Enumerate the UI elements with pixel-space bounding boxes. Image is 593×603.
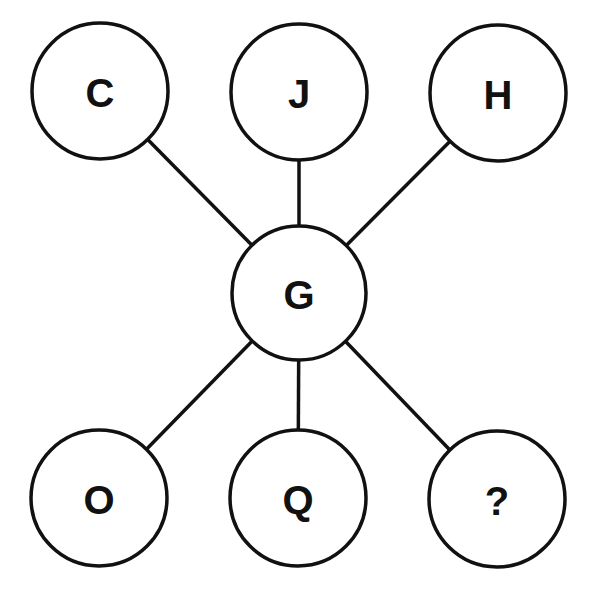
node-top-middle: J [231,24,367,160]
question-mark-label: ? [485,479,509,523]
node-bottom-right-unknown: ? [429,431,565,567]
bottom-middle-label: Q [282,478,313,522]
letter-puzzle-diagram: G C J H O Q ? [0,0,593,603]
bottom-left-label: O [83,478,114,522]
node-center: G [232,226,366,360]
center-label: G [283,273,314,317]
diagram-svg: G C J H O Q ? [0,0,593,603]
connector-line [346,141,450,245]
connector-line [148,139,252,245]
top-middle-label: J [288,72,310,116]
connector-line [146,341,252,449]
connector-line [345,341,449,450]
nodes: G C J H O Q ? [31,23,566,567]
node-bottom-left: O [31,430,167,566]
top-right-label: H [484,73,513,117]
top-left-label: C [86,71,115,115]
node-top-left: C [32,23,168,159]
node-top-right: H [430,25,566,161]
node-bottom-middle: Q [230,430,366,566]
